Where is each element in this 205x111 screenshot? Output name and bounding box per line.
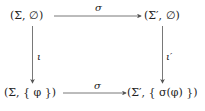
label-right-iota-prime: ι′: [166, 52, 172, 62]
node-top-left: (Σ, ∅): [10, 10, 43, 22]
node-bottom-left: (Σ, { φ }): [4, 87, 56, 99]
node-bottom-right: (Σ′, { σ(φ) }): [127, 87, 198, 99]
label-top-sigma: σ: [95, 3, 102, 13]
node-top-right: (Σ′, ∅): [144, 10, 180, 22]
label-left-iota: ι: [37, 52, 41, 62]
label-bottom-sigma: σ: [94, 81, 101, 91]
